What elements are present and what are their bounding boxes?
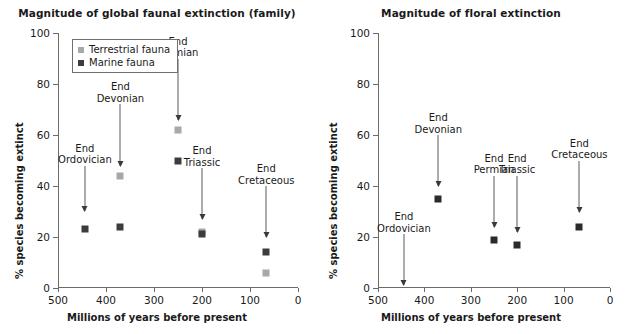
- annotation-label: EndCretaceous: [238, 163, 294, 186]
- y-tick-label: 60: [37, 129, 50, 141]
- figure-root: Magnitude of global faunal extinction (f…: [0, 0, 628, 334]
- y-tick-label: 80: [37, 78, 50, 90]
- y-tick-label: 20: [357, 231, 370, 243]
- y-tick-label: 80: [357, 78, 370, 90]
- annotation-arrow: [120, 104, 121, 165]
- data-point: [263, 269, 270, 276]
- x-tick-label: 500: [368, 294, 388, 306]
- annotation-label: EndCretaceous: [551, 138, 607, 161]
- data-point: [435, 195, 442, 202]
- x-axis-label-faunal: Millions of years before present: [0, 312, 314, 323]
- x-tick: [250, 288, 251, 292]
- x-axis-line-1: [378, 287, 610, 288]
- data-point: [175, 157, 182, 164]
- plot-area-floral: 0204060801005004003002001000EndOrdovicia…: [378, 33, 610, 288]
- data-point: [81, 226, 88, 233]
- x-tick: [202, 288, 203, 292]
- y-tick: [373, 84, 378, 85]
- y-tick: [53, 135, 58, 136]
- y-tick-label: 40: [37, 180, 50, 192]
- annotation-arrow: [202, 168, 203, 219]
- y-tick: [53, 186, 58, 187]
- x-axis-label-floral: Millions of years before present: [314, 312, 628, 323]
- x-tick: [154, 288, 155, 292]
- y-tick-label: 0: [363, 282, 370, 294]
- annotation-label: EndTriassic: [184, 145, 220, 168]
- data-point: [117, 223, 124, 230]
- x-tick: [58, 288, 59, 292]
- x-tick-label: 0: [295, 294, 302, 306]
- chart-title-floral: Magnitude of floral extinction: [314, 7, 628, 19]
- x-axis-line-0: [58, 287, 298, 288]
- chart-panel-floral: Magnitude of floral extinction % species…: [314, 0, 628, 334]
- data-point: [199, 231, 206, 238]
- x-tick: [564, 288, 565, 292]
- x-tick: [471, 288, 472, 292]
- legend-item: Terrestrial fauna: [78, 43, 170, 56]
- annotation-arrow: [438, 135, 439, 186]
- annotation-arrow: [494, 176, 495, 227]
- x-tick-label: 500: [48, 294, 68, 306]
- y-axis-line-1: [378, 33, 379, 288]
- x-tick-label: 200: [192, 294, 212, 306]
- chart-title-faunal: Magnitude of global faunal extinction (f…: [0, 7, 314, 19]
- annotation-label: EndTriassic: [499, 153, 535, 176]
- plot-area-faunal: 0204060801005004003002001000EndOrdovicia…: [58, 33, 298, 288]
- chart-legend: Terrestrial faunaMarine fauna: [72, 39, 178, 73]
- x-tick-label: 400: [96, 294, 116, 306]
- y-tick: [53, 33, 58, 34]
- x-tick: [298, 288, 299, 292]
- data-point: [576, 223, 583, 230]
- data-point: [514, 241, 521, 248]
- data-point: [263, 249, 270, 256]
- annotation-label: EndOrdovician: [377, 211, 431, 234]
- x-tick-label: 400: [414, 294, 434, 306]
- y-tick: [373, 237, 378, 238]
- x-tick: [106, 288, 107, 292]
- x-tick: [610, 288, 611, 292]
- legend-swatch: [78, 60, 84, 66]
- x-tick: [424, 288, 425, 292]
- y-tick-label: 20: [37, 231, 50, 243]
- data-point: [175, 126, 182, 133]
- y-tick-label: 100: [350, 27, 370, 39]
- x-tick-label: 100: [240, 294, 260, 306]
- y-tick-label: 100: [30, 27, 50, 39]
- annotation-label: EndDevonian: [415, 112, 462, 135]
- x-tick-label: 0: [607, 294, 614, 306]
- y-tick: [373, 186, 378, 187]
- y-tick: [53, 84, 58, 85]
- annotation-label: EndDevonian: [97, 81, 144, 104]
- y-axis-label-faunal: % species becoming extinct: [14, 122, 25, 279]
- x-tick-label: 300: [144, 294, 164, 306]
- annotation-label: EndOrdovician: [58, 143, 112, 166]
- legend-label: Marine fauna: [89, 57, 155, 68]
- y-tick-label: 60: [357, 129, 370, 141]
- data-point: [491, 236, 498, 243]
- annotation-arrow: [266, 186, 267, 237]
- legend-swatch: [78, 47, 84, 53]
- annotation-arrow: [517, 176, 518, 232]
- annotation-arrow: [579, 161, 580, 212]
- data-point: [117, 172, 124, 179]
- y-tick: [373, 135, 378, 136]
- legend-label: Terrestrial fauna: [89, 44, 170, 55]
- y-tick-label: 40: [357, 180, 370, 192]
- x-tick-label: 100: [554, 294, 574, 306]
- x-tick-label: 300: [461, 294, 481, 306]
- annotation-arrow: [84, 166, 85, 212]
- annotation-arrow: [403, 234, 404, 285]
- y-axis-label-floral: % species becoming extinct: [328, 122, 339, 279]
- chart-panel-faunal: Magnitude of global faunal extinction (f…: [0, 0, 314, 334]
- x-tick: [517, 288, 518, 292]
- y-tick: [53, 237, 58, 238]
- legend-item: Marine fauna: [78, 56, 170, 69]
- y-tick-label: 0: [43, 282, 50, 294]
- x-tick-label: 200: [507, 294, 527, 306]
- y-tick: [373, 33, 378, 34]
- x-tick: [378, 288, 379, 292]
